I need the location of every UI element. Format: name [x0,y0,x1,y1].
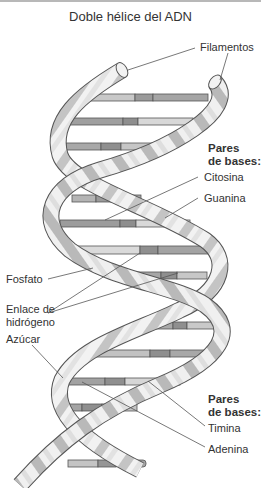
label-timina: Timina [208,422,241,435]
label-fosfato: Fosfato [6,273,43,286]
base-pair [85,94,208,101]
label-citosina: Citosina [204,171,244,184]
label-enlace-line1: Enlace de [6,303,55,316]
label-pares-bases-1-line1: Pares [208,142,239,155]
label-enlace-line2: hidrógeno [6,316,55,329]
label-guanina: Guanina [204,192,246,205]
base-pair [76,246,216,254]
label-filamentos: Filamentos [200,41,254,54]
label-adenina: Adenina [208,443,248,456]
label-pares-bases-1-line2: de bases: [208,155,261,168]
label-pares-bases-2-line1: Pares [208,393,239,406]
base-pair [68,118,193,125]
label-azucar: Azúcar [6,333,40,346]
label-pares-bases-2-line2: de bases: [208,406,261,419]
